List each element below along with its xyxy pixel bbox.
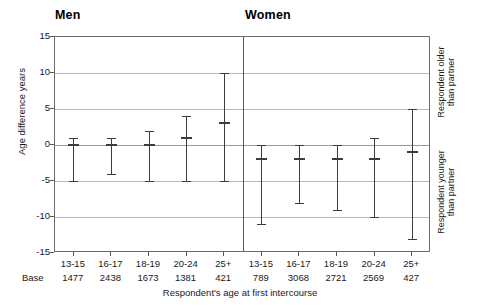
x-tick-mark (73, 252, 74, 256)
error-bar-cap-lower (107, 174, 116, 175)
error-bar-stem (374, 138, 375, 217)
error-bar-median (68, 144, 79, 146)
y-tick-mark--5 (50, 180, 54, 181)
annotation-younger-line1: Respondent younger (436, 150, 446, 234)
base-value: 3068 (288, 272, 309, 283)
y-tick-mark-0 (50, 144, 54, 145)
error-bar-cap-lower (370, 217, 379, 218)
error-bar (216, 37, 232, 253)
error-bar-cap-upper (182, 116, 191, 117)
y-tick-label--10: -10 (28, 211, 50, 221)
x-tick-label: 25+ (215, 258, 231, 269)
error-bar-cap-upper (145, 131, 154, 132)
error-bar-cap-lower (257, 224, 266, 225)
y-tick-label-0: 0 (28, 139, 50, 149)
base-value: 2569 (363, 272, 384, 283)
error-bar-stem (186, 116, 187, 181)
error-bar-median (106, 144, 117, 146)
x-tick-label: 20-24 (173, 258, 197, 269)
panel-divider (243, 37, 244, 251)
x-tick-mark (298, 252, 299, 256)
y-tick-mark--15 (50, 252, 54, 253)
y-tick-label-10: 10 (28, 67, 50, 77)
base-value: 2438 (100, 272, 121, 283)
error-bar (179, 37, 195, 253)
error-bar-cap-upper (257, 145, 266, 146)
error-bar-cap-lower (220, 181, 229, 182)
y-axis-title: Age difference years (16, 47, 27, 177)
y-tick-mark--10 (50, 216, 54, 217)
error-bar-cap-upper (333, 145, 342, 146)
x-tick-label: 18-19 (136, 258, 160, 269)
base-row-label: Base (22, 272, 44, 283)
figure-container: Men Women 151050-5-10-15 Age difference … (0, 0, 480, 308)
error-bar-stem (149, 131, 150, 181)
plot-area (54, 36, 430, 252)
error-bar-stem (224, 73, 225, 181)
base-value: 789 (253, 272, 269, 283)
y-tick-mark-15 (50, 36, 54, 37)
x-tick-mark (374, 252, 375, 256)
base-value: 427 (403, 272, 419, 283)
y-tick-mark-10 (50, 72, 54, 73)
x-tick-label: 13-15 (61, 258, 85, 269)
panel-title-men: Men (55, 8, 81, 22)
error-bar-cap-lower (333, 210, 342, 211)
base-value: 2721 (325, 272, 346, 283)
error-bar-cap-upper (107, 138, 116, 139)
y-tick-label-15: 15 (28, 31, 50, 41)
error-bar-cap-upper (408, 109, 417, 110)
base-value: 1381 (175, 272, 196, 283)
base-value: 1673 (137, 272, 158, 283)
error-bar (141, 37, 157, 253)
annotation-younger-line2: than partner (446, 168, 456, 217)
error-bar-cap-upper (295, 145, 304, 146)
y-tick-label-5: 5 (28, 103, 50, 113)
error-bar-stem (261, 145, 262, 224)
error-bar (329, 37, 345, 253)
x-tick-mark (110, 252, 111, 256)
x-tick-mark (411, 252, 412, 256)
error-bar-median (181, 137, 192, 139)
y-tick-label--5: -5 (28, 175, 50, 185)
panel-title-women: Women (245, 8, 291, 22)
error-bar-median (219, 122, 230, 124)
error-bar-stem (337, 145, 338, 210)
error-bar-cap-lower (408, 239, 417, 240)
annotation-older-than-partner: Respondent older than partner (436, 34, 456, 130)
error-bar-median (407, 151, 418, 153)
x-tick-label: 20-24 (361, 258, 385, 269)
error-bar-median (256, 158, 267, 160)
error-bar (367, 37, 383, 253)
x-tick-label: 25+ (403, 258, 419, 269)
x-tick-label: 18-19 (324, 258, 348, 269)
error-bar-cap-lower (69, 181, 78, 182)
error-bar (254, 37, 270, 253)
error-bar-median (369, 158, 380, 160)
base-value: 1477 (62, 272, 83, 283)
x-tick-label: 16-17 (286, 258, 310, 269)
error-bar-stem (412, 109, 413, 239)
y-tick-label--15: -15 (28, 247, 50, 257)
error-bar-stem (299, 145, 300, 203)
error-bar-median (144, 144, 155, 146)
x-tick-label: 16-17 (98, 258, 122, 269)
x-axis-title: Respondent's age at first intercourse (0, 287, 480, 298)
x-tick-mark (148, 252, 149, 256)
x-tick-mark (223, 252, 224, 256)
error-bar-median (332, 158, 343, 160)
error-bar (404, 37, 420, 253)
error-bar (66, 37, 82, 253)
error-bar-cap-lower (295, 203, 304, 204)
x-tick-mark (186, 252, 187, 256)
annotation-older-line2: than partner (446, 58, 456, 107)
y-tick-mark-5 (50, 108, 54, 109)
error-bar-cap-upper (370, 138, 379, 139)
error-bar (291, 37, 307, 253)
error-bar-median (294, 158, 305, 160)
error-bar-cap-upper (220, 73, 229, 74)
error-bar-cap-lower (145, 181, 154, 182)
x-tick-mark (261, 252, 262, 256)
annotation-older-line1: Respondent older (436, 47, 446, 118)
error-bar-cap-lower (182, 181, 191, 182)
